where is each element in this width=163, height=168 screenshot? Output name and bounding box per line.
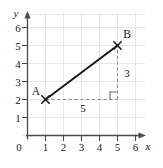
rise-length-label: 3 — [124, 67, 130, 79]
x-tick-label-2: 2 — [61, 141, 67, 153]
y-tick-label-4: 4 — [15, 58, 21, 70]
x-axis-label: x — [145, 140, 151, 152]
x-tick-label-3: 3 — [79, 141, 85, 153]
run-length-label: 5 — [80, 102, 86, 114]
y-tick-label-3: 3 — [15, 76, 21, 88]
y-tick-label-1: 1 — [15, 112, 21, 124]
figure-canvas: y x 0 1 2 3 4 5 6 1 2 3 4 5 6 A B 5 3 — [0, 0, 163, 168]
y-axis-ticks — [22, 28, 28, 118]
x-tick-label-1: 1 — [43, 141, 49, 153]
right-angle-marker — [110, 92, 118, 100]
x-tick-label-4: 4 — [97, 141, 103, 153]
point-b-label: B — [123, 28, 131, 40]
y-tick-label-2: 2 — [15, 94, 21, 106]
y-axis-label: y — [13, 7, 19, 19]
point-a-label: A — [32, 85, 41, 97]
coordinate-plot-svg: y x 0 1 2 3 4 5 6 1 2 3 4 5 6 A B 5 3 — [0, 0, 163, 168]
y-tick-label-5: 5 — [15, 40, 21, 52]
x-tick-label-5: 5 — [115, 141, 121, 153]
x-axis-ticks — [46, 136, 136, 142]
x-axis-arrowhead — [139, 132, 147, 138]
x-tick-label-6: 6 — [133, 141, 139, 153]
y-tick-label-6: 6 — [15, 22, 21, 34]
origin-tick-label: 0 — [16, 141, 22, 153]
